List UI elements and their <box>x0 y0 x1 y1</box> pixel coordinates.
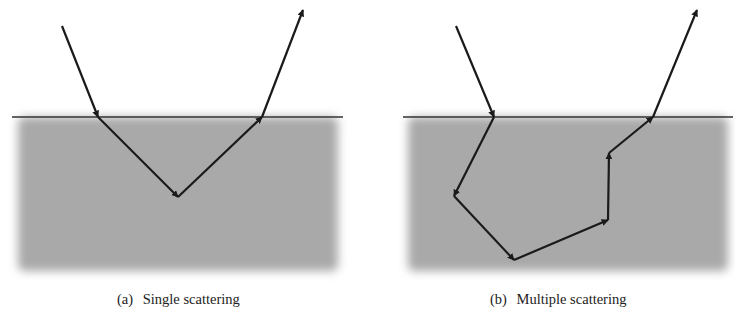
caption-multiple: (b) Multiple scattering <box>490 291 626 308</box>
caption-text: Multiple scattering <box>517 291 627 307</box>
caption-tag: (a) <box>117 291 133 307</box>
caption-text: Single scattering <box>143 291 240 307</box>
ray-segment-arrow-icon <box>608 153 609 220</box>
ray-segment-arrow-icon <box>262 10 303 117</box>
ray-segment-arrow-icon <box>62 26 98 117</box>
scattering-diagram <box>0 0 735 325</box>
caption-single: (a) Single scattering <box>117 291 240 308</box>
ray-segment-arrow-icon <box>653 10 697 117</box>
medium-single <box>18 117 338 271</box>
ray-segment-arrow-icon <box>456 26 494 117</box>
caption-tag: (b) <box>490 291 507 307</box>
